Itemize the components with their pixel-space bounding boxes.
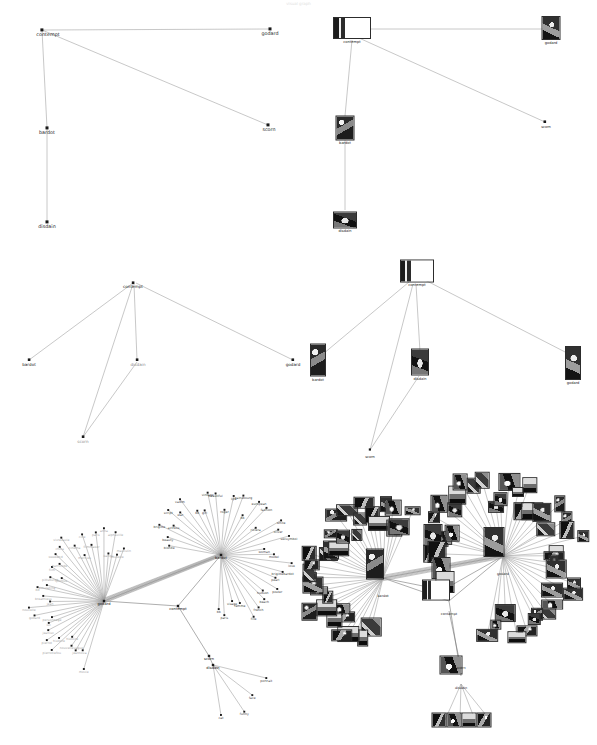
leaf-node-label: paris [220,617,228,620]
leaf-node-label: film [49,569,55,572]
node-label-disdain: disdain [414,377,427,381]
panel-bottom-right: bbbardotgodardcontemptscorndisdain [299,470,597,745]
hub-node-label-godard: godard [98,603,111,606]
leaf-node-label: cinema [69,547,81,550]
hub-node-label-scorn: scorn [456,666,465,670]
node-label-contempt: contempt [36,33,59,37]
leaf-node-label: hudson [257,592,269,595]
thumbnail-leaf [430,495,447,513]
node-label-disdain: disdain [339,229,352,233]
leaf-node-label: movie [79,671,89,674]
leaf-node-label: pierrotlefou [42,652,61,655]
panel-bottom-left: movienovajeannouvellevaguehistoirepierro… [0,470,298,745]
node-godard-dot [269,27,272,30]
leaf-node-label: funny [240,713,249,716]
node-label-scorn: scorn [77,440,88,444]
hub-node-label-godard: godard [497,572,509,576]
thumbnail-leaf [528,613,540,625]
node-label-godard: godard [261,32,278,36]
thumbnail-leaf [389,518,410,535]
node-label-disdain: disdain [130,363,145,367]
thumbnail-leaf [507,632,526,644]
leaf-node-label: brigittebardot [272,573,294,576]
node-scorn-dot [369,448,371,450]
node-label-contempt: contempt [123,285,143,289]
leaf-node-label: gainsbourg [234,497,252,500]
node-bardot-dot [46,126,49,129]
node-label-contempt: contempt [408,283,425,287]
node-disdain-dot [136,358,139,361]
node-label-bardot: bardot [339,141,351,145]
leaf-node-label: brigitte [154,526,166,529]
leaf-node-label: bb [195,512,199,515]
thumbnail-leaf [559,521,574,539]
thumbnail-leaf [385,499,402,516]
leaf-node-label: white [277,522,286,525]
leaf-node-label: french [254,609,264,612]
leaf-node-label: poster [272,591,282,594]
panel-top-left: contempt godard scorn bardot disdain [0,0,298,250]
leaf-node-label: riviera [251,529,261,532]
node-label-scorn: scorn [365,455,375,459]
panel-middle-left-edges [0,250,298,480]
leaf-node-label: script [164,512,173,515]
leaf-node-label: cat [218,717,223,720]
leaf-node-label: beauty [162,539,173,542]
leaf-node-label: breathless [35,598,52,601]
leaf-node-label: anna [100,530,108,533]
leaf-node-label: personnage [43,619,62,622]
node-bardot-dot [28,358,31,361]
node-scorn-dot [267,123,270,126]
panel-middle-right: contempt bardot disdain godard scorn [299,250,597,480]
leaf-node-label: nouvellevague [60,647,83,650]
thumbnail-disdain-leaf [447,713,462,728]
thumb-godard [542,16,561,40]
leaf-node-label: masculin [117,550,131,553]
leaf-node-label: roger [220,511,229,514]
leaf-node-label: visage [227,603,237,606]
panel-middle-left: contempt bardot disdain godard scorn [0,250,298,480]
thumbnail-leaf [536,522,556,535]
hub-node-label-contempt: contempt [441,612,457,616]
thumbnail-leaf [445,525,460,542]
leaf-node-label: woman [258,551,270,554]
thumbnail-leaf [476,629,498,641]
leaf-node-label: alphaville [108,534,123,537]
thumb-disdain [411,349,429,376]
node-label-scorn: scorn [262,128,275,132]
node-label-bardot: bardot [22,363,36,367]
thumbnail-leaf [475,472,490,489]
leaf-node-label: pontus [56,580,67,583]
leaf-node-label: jean [47,603,54,606]
thumb-disdain [333,212,357,229]
leaf-node-label: girl [202,512,207,515]
leaf-node-label: luc [46,624,51,627]
thumbnail-leaf [351,529,362,541]
leaf-node-label: cine [79,536,86,539]
leaf-node-label: nouvelle [22,609,36,612]
thumbnail-leaf [546,559,567,578]
leaf-node-label: paris [92,534,100,537]
leaf-node-label: portrait [260,680,272,683]
node-label-disdain: disdain [38,225,56,229]
leaf-node-label: histoire [66,638,78,641]
leaf-node-label: nouvelle [110,556,124,559]
leaf-node-label: vivresavie [53,539,69,542]
leaf-node-label: european [252,503,267,506]
panel-top-right: contempt godard scorn bardot disdain [299,0,597,250]
thumbnail-godard [484,527,505,557]
leaf-node-label: weekend [48,556,62,559]
leaf-node-label: star [177,514,183,517]
thumbnail-leaf [301,602,318,621]
node-label-godard: godard [545,41,558,45]
thumbnail-leaf [532,503,551,521]
thumbnail-leaf [541,583,563,598]
thumbnail-leaf [522,477,537,493]
node-label-godard: godard [567,381,580,385]
leaf-node-label: pierrot [41,642,52,645]
leaf-node-label: blonde [164,547,175,550]
thumbnail-leaf [578,530,589,542]
thumbnail-leaf [563,588,583,601]
thumbnail-disdain [440,656,463,675]
leaf-node-label: jeanluc [43,632,55,635]
